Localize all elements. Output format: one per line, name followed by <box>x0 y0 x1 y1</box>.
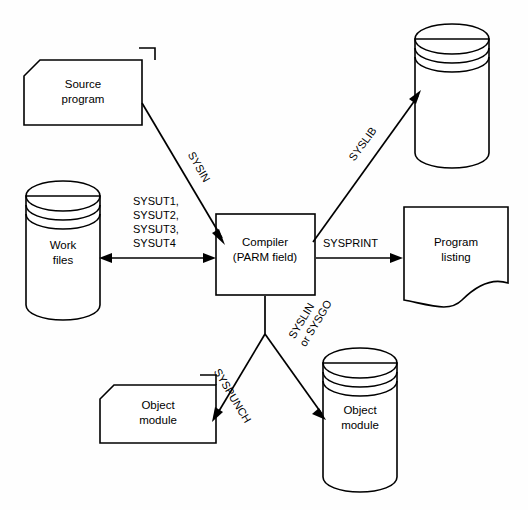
sysut-label-line1: SYSUT1, <box>133 195 179 207</box>
node-work-files[interactable]: Work files <box>26 181 100 320</box>
node-source-program[interactable]: Source program <box>24 48 155 125</box>
sysut-label-line2: SYSUT2, <box>133 209 179 221</box>
node-program-listing[interactable]: Program listing <box>404 207 508 307</box>
diagram-canvas: Source program Work files Compiler (PARM… <box>0 0 528 510</box>
flow-sysprint: SYSPRINT <box>316 237 403 263</box>
sysut-label-line3: SYSUT3, <box>133 223 179 235</box>
program-listing-label-line1: Program <box>434 236 478 248</box>
flow-sysut: SYSUT1, SYSUT2, SYSUT3, SYSUT4 <box>99 195 216 263</box>
node-object-module-card[interactable]: Object module <box>100 375 216 443</box>
program-listing-label-line2: listing <box>441 251 470 263</box>
sysut-label-line4: SYSUT4 <box>133 237 176 249</box>
source-program-label-line2: program <box>62 93 105 105</box>
node-compiler[interactable]: Compiler (PARM field) <box>216 214 315 295</box>
object-module-card-label-line1: Object <box>141 399 175 411</box>
object-module-card-label-line2: module <box>139 414 177 426</box>
syslib-arrow-line <box>313 96 418 242</box>
sysprint-label: SYSPRINT <box>323 237 378 249</box>
object-module-disk-label-line2: module <box>341 419 379 431</box>
compiler-label-line1: Compiler <box>242 236 288 248</box>
work-files-label-line2: files <box>53 254 74 266</box>
node-syslib-library[interactable] <box>415 24 489 168</box>
work-files-label-line1: Work <box>50 239 77 251</box>
sysut-arrowhead-right <box>203 253 216 263</box>
source-program-label-line1: Source <box>65 78 101 90</box>
compiler-label-line2: (PARM field) <box>233 251 297 263</box>
source-program-corner-bracket <box>139 48 155 60</box>
sysut-arrowhead-left <box>99 253 112 263</box>
sysprint-arrowhead <box>390 253 403 263</box>
sysin-label: SYSIN <box>186 149 213 184</box>
flow-diagram: Source program Work files Compiler (PARM… <box>0 0 528 510</box>
object-module-disk-label-line1: Object <box>343 404 377 416</box>
object-module-card-corner-bracket <box>200 375 216 385</box>
flow-syspunch: SYSPUNCH <box>212 334 265 425</box>
syslin-arrow-line <box>265 334 322 414</box>
node-object-module-disk[interactable]: Object module <box>323 348 397 492</box>
